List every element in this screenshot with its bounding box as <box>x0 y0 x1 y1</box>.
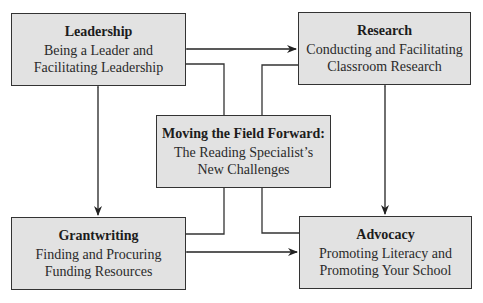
node-description: Finding and Procuring Funding Resources <box>36 246 162 280</box>
node-research: Research Conducting and Facilitating Cla… <box>298 12 471 85</box>
node-grantwriting: Grantwriting Finding and Procuring Fundi… <box>11 217 186 290</box>
node-line: Being a Leader and <box>34 42 163 59</box>
center-description: The Reading Specialist’s New Challenges <box>174 144 313 178</box>
node-advocacy: Advocacy Promoting Literacy and Promotin… <box>299 216 472 289</box>
node-description: Promoting Literacy and Promoting Your Sc… <box>319 245 452 279</box>
connector-center-grantwriting <box>185 187 224 234</box>
node-description: Being a Leader and Facilitating Leadersh… <box>34 42 163 76</box>
node-title: Grantwriting <box>58 227 138 244</box>
node-title: Research <box>357 22 412 39</box>
node-line: Conducting and Facilitating <box>306 41 462 58</box>
node-line: New Challenges <box>174 161 313 178</box>
center-title: Moving the Field Forward: <box>162 125 325 142</box>
node-title: Leadership <box>65 23 133 40</box>
node-line: Promoting Literacy and <box>319 245 452 262</box>
node-line: Promoting Your School <box>319 262 452 279</box>
connector-center-advocacy <box>262 187 299 233</box>
node-line: The Reading Specialist’s <box>174 144 313 161</box>
node-center: Moving the Field Forward: The Reading Sp… <box>156 115 331 188</box>
connector-center-research <box>262 65 298 115</box>
node-line: Funding Resources <box>36 263 162 280</box>
node-line: Facilitating Leadership <box>34 59 163 76</box>
node-description: Conducting and Facilitating Classroom Re… <box>306 41 462 75</box>
node-title: Advocacy <box>356 226 414 243</box>
connector-center-leadership <box>185 64 224 115</box>
node-line: Classroom Research <box>306 58 462 75</box>
node-leadership: Leadership Being a Leader and Facilitati… <box>11 13 186 86</box>
node-line: Finding and Procuring <box>36 246 162 263</box>
